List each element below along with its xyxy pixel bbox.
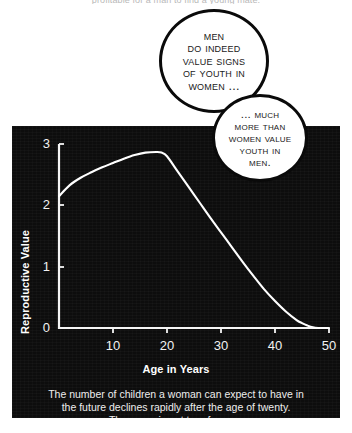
x-tick-50: 50 <box>314 339 340 352</box>
bubble-two-line-5: men. <box>229 156 292 168</box>
x-tick-20: 20 <box>152 339 182 352</box>
speech-bubble-two-text: ... much more than women value youth in … <box>229 108 292 168</box>
bubble-two-line-3: women value <box>229 132 292 144</box>
bubble-one-line-5: women ... <box>183 80 246 93</box>
x-tick-10: 10 <box>98 339 128 352</box>
speech-bubble-one-text: Men do indeed value signs of youth in wo… <box>183 30 246 93</box>
bubble-two-line-1: ... much <box>229 108 292 120</box>
caption-line-2: the future declines rapidly after the ag… <box>24 401 328 414</box>
top-clipped-caption: profitable for a man to find a young mat… <box>0 0 352 4</box>
x-tick-40: 40 <box>260 339 290 352</box>
x-axis-title: Age in Years <box>12 363 340 375</box>
bubble-one-line-2: do indeed <box>183 42 246 55</box>
x-tick-30: 30 <box>206 339 236 352</box>
figure-caption: The number of children a woman can expec… <box>24 388 328 418</box>
caption-line-1: The number of children a woman can expec… <box>24 388 328 401</box>
caption-line-3: The same is not true for men <box>24 414 328 418</box>
bubble-one-line-4: of youth in <box>183 67 246 80</box>
y-axis-title: Reproductive Value <box>19 222 31 342</box>
bubble-two-line-4: youth in <box>229 144 292 156</box>
bubble-two-line-2: more than <box>229 120 292 132</box>
speech-bubble-much-more-than: ... much more than women value youth in … <box>212 94 308 182</box>
